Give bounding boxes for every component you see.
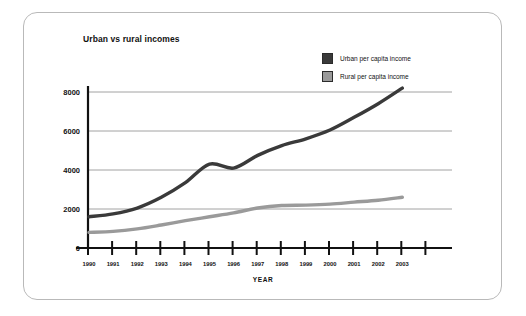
xtick-label: 1991 <box>107 261 121 267</box>
xtick-label: 1993 <box>155 261 169 267</box>
xtick-label: 1995 <box>203 261 217 267</box>
xtick-label: 1994 <box>179 261 193 267</box>
ytick-label: 4000 <box>63 166 80 175</box>
ytick-label: 8000 <box>63 88 80 97</box>
xtick-label: 2001 <box>348 261 362 267</box>
ytick-label: 2000 <box>63 205 80 214</box>
y-tick-labels: 02000400060008000 <box>63 88 80 253</box>
xtick-label: 1997 <box>251 261 264 267</box>
x-tick-labels: 1990199119921993199419951996199719981999… <box>83 261 410 267</box>
xtick-label: 1990 <box>83 261 96 267</box>
xtick-label: 2002 <box>372 261 385 267</box>
xtick-label: 2000 <box>324 261 337 267</box>
ytick-label: 6000 <box>63 127 80 136</box>
xtick-label: 1998 <box>275 261 289 267</box>
xtick-label: 2003 <box>396 261 410 267</box>
xaxis-title: YEAR <box>0 276 526 283</box>
plot-area: 02000400060008000 1990199119921993199419… <box>0 0 526 316</box>
series-line-urban <box>89 88 402 217</box>
series-line-rural <box>89 197 402 232</box>
xtick-label: 1992 <box>131 261 144 267</box>
xtick-label: 1996 <box>227 261 241 267</box>
xtick-label: 1999 <box>299 261 313 267</box>
